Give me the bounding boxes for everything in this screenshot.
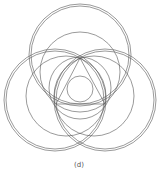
geometric-diagram bbox=[0, 0, 158, 160]
double-circle-outer-0 bbox=[29, 4, 131, 106]
medium-circle-1 bbox=[26, 56, 106, 136]
lens-circle-0 bbox=[49, 57, 111, 119]
medium-circle-0 bbox=[40, 32, 120, 112]
double-circle-inner-0 bbox=[31, 6, 129, 104]
medium-circle-2 bbox=[54, 56, 134, 136]
incircle bbox=[67, 76, 93, 102]
figure-caption: (d) bbox=[0, 161, 158, 169]
triangle bbox=[56, 58, 105, 104]
